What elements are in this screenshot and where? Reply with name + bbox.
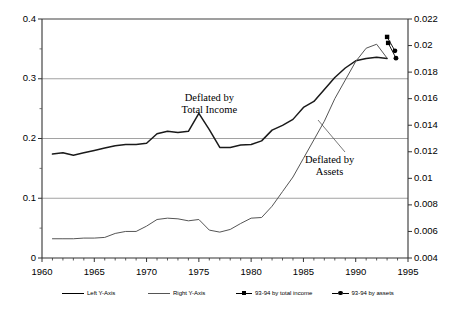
- legend-item-93-94-by-assets: 93-94 by assets: [332, 286, 394, 300]
- annotation-leader-line: [318, 120, 345, 152]
- annotation-deflated-assets: Deflated by Assets: [290, 154, 370, 178]
- y-axis-right-tick-label: 0.016: [414, 92, 438, 103]
- series-line-right-y-axis: [52, 44, 387, 239]
- y-axis-right-tick-label: 0.014: [414, 119, 438, 130]
- x-axis-tick-label: 1965: [74, 266, 114, 277]
- y-axis-right-tick-label: 0.018: [414, 66, 438, 77]
- chart-container: 00.10.20.30.40.0040.0060.0080.010.0120.0…: [0, 0, 457, 311]
- annotation-line-2: Total Income: [169, 104, 249, 116]
- y-axis-left-tick-label: 0.4: [2, 13, 36, 24]
- y-axis-right-tick-label: 0.022: [414, 13, 438, 24]
- legend-item-right-y-axis: Right Y-Axis: [148, 286, 205, 300]
- annotation-line-1: Deflated by: [169, 92, 249, 104]
- legend-item-left-y-axis: Left Y-Axis: [62, 286, 115, 300]
- legend-label: Left Y-Axis: [87, 290, 115, 296]
- legend-label: 93-94 by assets: [352, 290, 394, 296]
- y-axis-left-tick-label: 0.3: [2, 72, 36, 83]
- annotation-line-1: Deflated by: [290, 154, 370, 166]
- y-axis-right-tick-label: 0.02: [414, 39, 433, 50]
- y-axis-right-tick-label: 0.012: [414, 145, 438, 156]
- x-axis-tick-label: 1975: [179, 266, 219, 277]
- legend-line-segment: [343, 293, 349, 294]
- annotation-line-2: Assets: [290, 166, 370, 178]
- y-axis-left-tick-label: 0.2: [2, 132, 36, 143]
- x-axis-tick-label: 1995: [388, 266, 428, 277]
- x-axis-tick-label: 1980: [231, 266, 271, 277]
- legend-marker-square: [236, 291, 252, 295]
- y-axis-left-tick-label: 0.1: [2, 192, 36, 203]
- chart-legend: Left Y-Axis Right Y-Axis 93-94 by total …: [0, 286, 457, 302]
- x-axis-tick-label: 1960: [22, 266, 62, 277]
- y-axis-right-tick-label: 0.01: [414, 172, 433, 183]
- x-axis-tick-label: 1985: [283, 266, 323, 277]
- legend-line-swatch: [62, 293, 84, 294]
- y-axis-right-tick-label: 0.004: [414, 252, 438, 263]
- x-axis-tick-label: 1990: [336, 266, 376, 277]
- x-axis-tick-label: 1970: [127, 266, 167, 277]
- legend-marker-circle: [332, 291, 349, 296]
- annotation-deflated-total-income: Deflated by Total Income: [169, 92, 249, 116]
- legend-line-segment: [246, 293, 252, 294]
- legend-item-93-94-by-total-income: 93-94 by total income: [236, 286, 312, 300]
- y-axis-right-tick-label: 0.006: [414, 225, 438, 236]
- chart-plot-area: [0, 0, 457, 311]
- legend-label: 93-94 by total income: [255, 290, 312, 296]
- legend-line-swatch: [148, 293, 170, 294]
- legend-label: Right Y-Axis: [173, 290, 205, 296]
- y-axis-right-tick-label: 0.008: [414, 198, 438, 209]
- y-axis-left-tick-label: 0: [2, 252, 36, 263]
